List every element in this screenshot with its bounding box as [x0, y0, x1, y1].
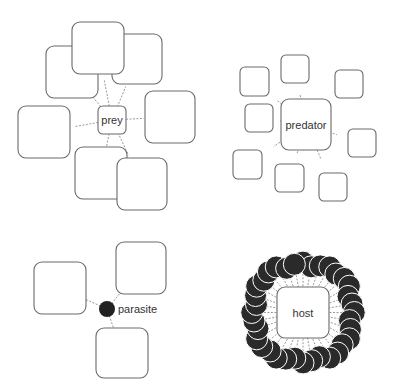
interaction-diagram: preypredatorparasitehost — [0, 0, 399, 391]
neighbor-node — [34, 262, 86, 314]
panel-host: host — [241, 251, 365, 374]
host-label: host — [293, 307, 314, 319]
parasite-center-node — [99, 301, 115, 317]
neighbor-node — [72, 22, 124, 74]
neighbor-node — [96, 328, 148, 378]
neighbor-node — [145, 91, 195, 143]
neighbor-node — [283, 253, 305, 275]
prey-label: prey — [101, 114, 123, 126]
neighbor-node — [348, 129, 376, 157]
neighbor-node — [117, 158, 167, 210]
neighbor-node — [233, 150, 262, 179]
predator-label: predator — [286, 119, 327, 131]
panel-prey: prey — [18, 22, 195, 210]
parasite-label: parasite — [118, 303, 157, 315]
panel-predator: predator — [233, 55, 376, 201]
neighbor-node — [319, 173, 347, 201]
neighbor-node — [18, 106, 70, 158]
panel-parasite: parasite — [34, 242, 166, 378]
neighbor-node — [116, 242, 166, 294]
neighbor-node — [240, 67, 269, 96]
neighbor-node — [281, 55, 309, 83]
neighbor-node — [275, 164, 304, 192]
neighbor-node — [245, 104, 273, 132]
neighbor-node — [335, 70, 363, 98]
